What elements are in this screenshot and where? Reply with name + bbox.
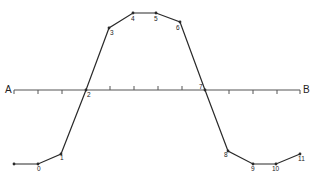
point-label: 7 — [199, 83, 203, 90]
profile-points: 01234567891011 — [13, 12, 306, 172]
point-label: 6 — [176, 24, 180, 31]
profile-point — [179, 21, 182, 24]
point-label: 8 — [224, 151, 228, 158]
axis-label-b: B — [303, 84, 310, 95]
point-label: 4 — [131, 15, 135, 22]
point-label: 5 — [154, 15, 158, 22]
point-label: 2 — [87, 91, 91, 98]
profile-point — [204, 89, 207, 92]
point-label: 10 — [272, 165, 280, 172]
axis-label-a: A — [5, 84, 12, 95]
diagram-canvas: A B 01234567891011 — [0, 0, 315, 181]
point-label: 1 — [60, 154, 64, 161]
point-label: 0 — [37, 165, 41, 172]
profile-line — [14, 13, 300, 164]
point-label: 3 — [110, 29, 114, 36]
point-label: 9 — [251, 165, 255, 172]
profile-point — [155, 12, 158, 15]
profile-point — [132, 12, 135, 15]
profile-diagram: A B 01234567891011 — [0, 0, 315, 181]
axis-ab: A B — [5, 84, 310, 95]
profile-point — [13, 163, 16, 166]
point-label: 11 — [298, 155, 305, 162]
